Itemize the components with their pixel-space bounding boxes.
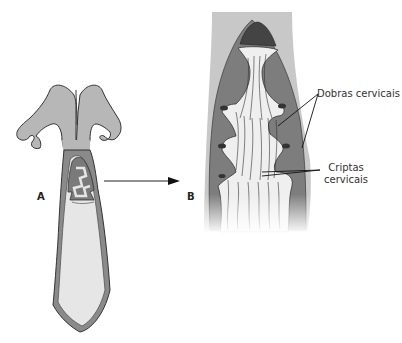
annotation-criptas-line2: cervicais [324, 174, 368, 186]
arrow-a-to-b [104, 177, 180, 185]
panel-a-uterus [17, 85, 121, 332]
panel-a-label: A [37, 191, 45, 202]
annotation-dobras-cervicais: Dobras cervicais [317, 88, 400, 100]
annotation-criptas-cervicais: Criptas cervicais [324, 162, 368, 186]
panel-b-label: B [187, 191, 195, 202]
annotation-criptas-line1: Criptas [324, 162, 368, 174]
panel-b-detail [200, 12, 320, 234]
